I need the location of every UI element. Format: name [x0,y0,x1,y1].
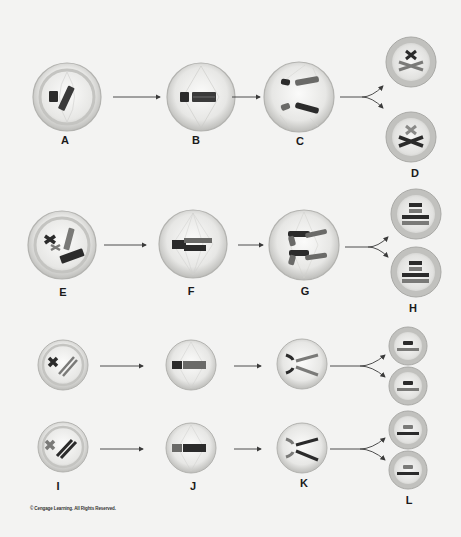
diagram-canvas: A B C D E F G H I J K L © Cengage Learni… [0,0,461,537]
cell-k-bottom [277,423,327,473]
cell-l-3 [389,411,427,449]
label-b: B [192,134,200,146]
label-j: J [190,480,196,492]
label-e: E [59,286,66,298]
copyright-notice: © Cengage Learning. All Rights Reserved. [30,506,116,511]
cell-h-top [391,189,441,239]
diagram-svg [0,0,461,537]
arrow-k-l-bottom-down [360,449,385,460]
cell-d-top [386,37,436,87]
cell-a [33,63,101,131]
cell-l-4 [389,451,427,489]
cell-d-bottom [386,112,436,162]
cell-i-bottom [38,422,88,472]
label-c: C [296,135,304,147]
cell-g [269,210,339,280]
label-i: I [56,480,59,492]
arrow-c-d-down [362,97,383,108]
cell-l-1 [389,327,427,365]
arrow-c-d-up [340,86,383,97]
cell-j-bottom [166,423,216,473]
arrow-g-h-down [368,247,388,257]
label-f: F [188,285,195,297]
cell-l-2 [389,367,427,405]
cell-b [167,63,235,131]
label-g: G [301,285,310,297]
label-d: D [411,167,419,179]
arrow-k-l-top-up [330,355,385,366]
cell-i-top [38,340,88,390]
cell-e [28,211,96,279]
cell-j-top [166,340,216,390]
label-k: K [300,477,308,489]
arrow-k-l-bottom-up [330,438,385,449]
cell-f [159,210,227,278]
label-l: L [406,494,413,506]
arrow-k-l-top-down [360,366,385,377]
label-a: A [61,134,69,146]
cell-k-top [277,339,327,389]
cell-c [264,62,334,132]
label-h: H [409,302,417,314]
arrow-g-h-up [345,237,388,247]
cell-h-bottom [391,247,441,297]
